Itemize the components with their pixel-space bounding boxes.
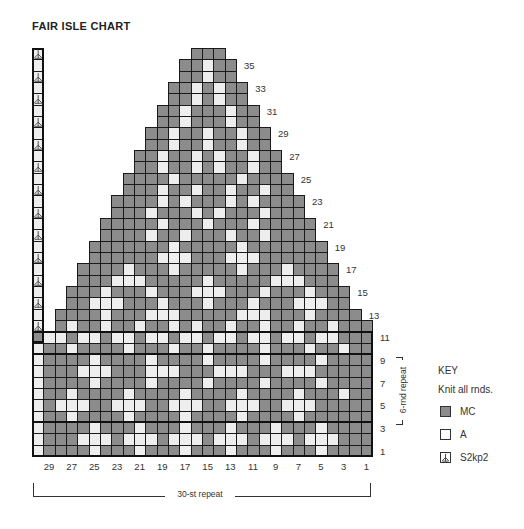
column-label: 19 [152, 461, 172, 472]
stitch-repeat-label: 30-st repeat [165, 489, 235, 499]
band-divider [32, 421, 372, 423]
column-label: 13 [220, 461, 240, 472]
column-label: 7 [288, 461, 308, 472]
column-label: 11 [243, 461, 263, 472]
row-label: 11 [380, 332, 400, 343]
key-item-a: A [438, 429, 524, 443]
key-item-mc: MC [438, 406, 524, 420]
round-repeat-label: 6-rnd repeat [398, 360, 408, 420]
key-label-s2kp2: S2kp2 [460, 452, 488, 463]
a-swatch-icon [440, 429, 451, 440]
column-label: 1 [356, 461, 376, 472]
band-divider [32, 353, 372, 355]
s2kp2-symbol-icon [440, 452, 451, 463]
column-label: 27 [62, 461, 82, 472]
column-label: 17 [175, 461, 195, 472]
key-label-mc: MC [460, 406, 476, 417]
key-subtitle: Knit all rnds. [438, 384, 493, 395]
column-label: 5 [311, 461, 331, 472]
column-label: 15 [198, 461, 218, 472]
row-label: 33 [255, 83, 275, 94]
column-label: 3 [334, 461, 354, 472]
row-label: 19 [335, 242, 355, 253]
key-label-a: A [460, 429, 467, 440]
row-label: 35 [244, 60, 264, 71]
row-label: 15 [357, 287, 377, 298]
column-label: 29 [39, 461, 59, 472]
row-label: 23 [312, 196, 332, 207]
row-label: 21 [323, 219, 343, 230]
mc-swatch-icon [440, 406, 451, 417]
chart-cell [361, 445, 373, 457]
column-label: 25 [84, 461, 104, 472]
key-item-s2kp2: S2kp2 [438, 452, 524, 466]
row-label: 29 [278, 128, 298, 139]
chart-title: FAIR ISLE CHART [32, 20, 131, 32]
row-label: 27 [289, 151, 309, 162]
row-label: 25 [301, 174, 321, 185]
key-title: KEY [438, 365, 458, 376]
row-label: 1 [380, 446, 400, 457]
row-label: 13 [369, 310, 389, 321]
column-label: 21 [130, 461, 150, 472]
row-label: 31 [267, 106, 287, 117]
column-label: 23 [107, 461, 127, 472]
row-label: 17 [346, 264, 366, 275]
column-label: 9 [266, 461, 286, 472]
fair-isle-chart-grid [32, 48, 372, 456]
